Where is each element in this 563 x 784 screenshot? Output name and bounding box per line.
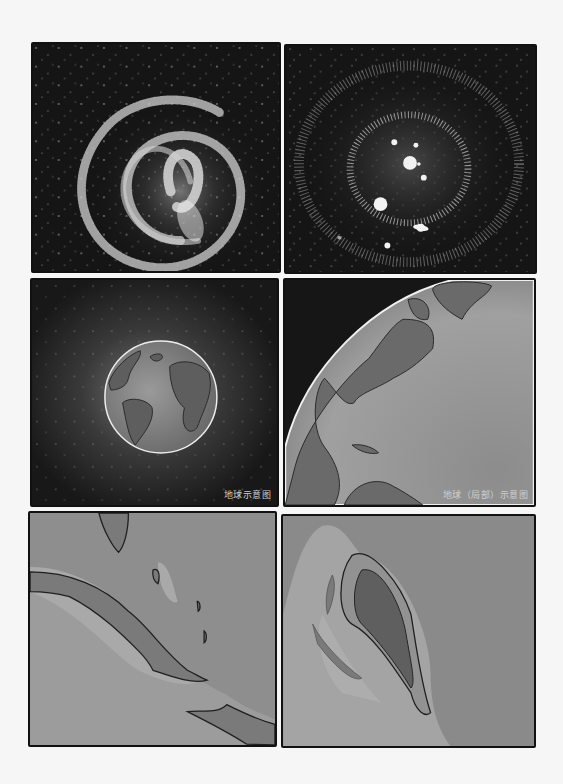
panel-island <box>281 514 536 748</box>
earth-caption: 地球示意图 <box>224 488 272 501</box>
panel-earth-partial: 地球（局部）示意图 <box>283 278 536 507</box>
earth-partial-caption: 地球（局部）示意图 <box>443 488 529 501</box>
caribbean-map-illustration <box>30 513 275 745</box>
island-illustration <box>283 516 534 746</box>
panel-caribbean <box>28 511 277 747</box>
panel-solar-system <box>284 44 537 274</box>
earth-illustration <box>32 280 277 505</box>
earth-partial-illustration <box>285 280 534 505</box>
solar-system-illustration <box>286 46 535 272</box>
galaxy-illustration <box>33 44 279 271</box>
panel-galaxy <box>31 42 281 273</box>
panel-earth: 地球示意图 <box>30 278 279 507</box>
